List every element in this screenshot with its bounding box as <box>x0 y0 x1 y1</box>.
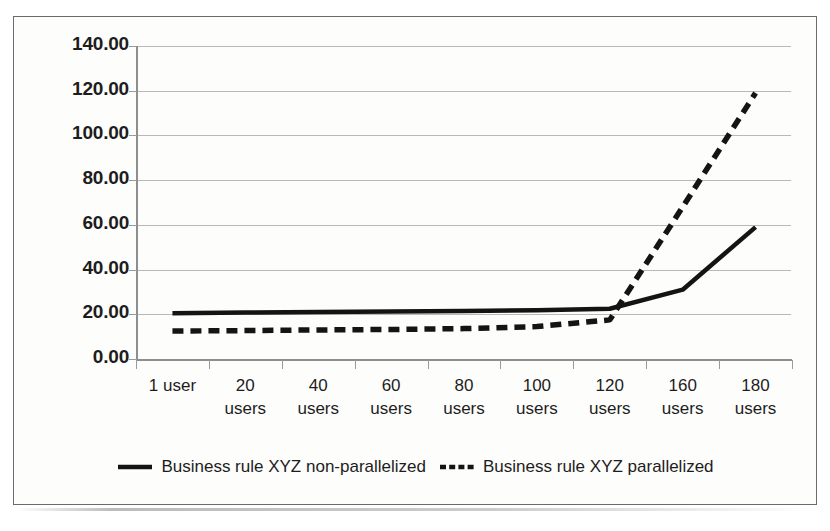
y-axis-tick-label: 120.00 <box>29 78 129 100</box>
chart-legend: Business rule XYZ non-parallelized Busin… <box>14 457 818 477</box>
x-axis-tick <box>355 360 356 369</box>
y-axis-tick-label: 100.00 <box>29 122 129 144</box>
legend-item-non-parallelized: Business rule XYZ non-parallelized <box>118 457 426 477</box>
legend-solid-line-icon <box>118 461 152 473</box>
legend-label-parallelized: Business rule XYZ parallelized <box>483 457 714 477</box>
y-axis-tick <box>129 270 137 271</box>
x-axis-tick <box>282 360 283 369</box>
y-axis-tick-label: 80.00 <box>29 167 129 189</box>
series-line-non-parallelized <box>172 227 755 313</box>
x-axis-tick <box>792 360 793 369</box>
y-axis-tick-label: 60.00 <box>29 212 129 234</box>
chart-frame: 140.00120.00100.0080.0060.0040.0020.000.… <box>13 16 817 505</box>
x-axis-tick <box>428 360 429 369</box>
x-axis-tick-label: 180 users <box>711 374 801 420</box>
y-axis-tick <box>129 225 137 226</box>
x-axis-tick <box>500 360 501 369</box>
x-axis-tick <box>646 360 647 369</box>
y-axis-tick <box>129 46 137 47</box>
x-axis-tick <box>573 360 574 369</box>
y-axis-labels: 140.00120.00100.0080.0060.0040.0020.000.… <box>24 17 129 504</box>
scan-shadow <box>16 508 816 511</box>
legend-dashed-line-icon <box>440 461 474 473</box>
legend-item-parallelized: Business rule XYZ parallelized <box>440 457 714 477</box>
y-axis-tick <box>129 314 137 315</box>
y-axis-tick <box>129 180 137 181</box>
y-axis-tick-label: 40.00 <box>29 257 129 279</box>
data-series-layer <box>136 46 792 360</box>
y-axis-tick <box>129 91 137 92</box>
x-axis-tick <box>209 360 210 369</box>
x-axis-tick <box>136 360 137 369</box>
y-axis-tick-label: 0.00 <box>29 346 129 368</box>
legend-label-non-parallelized: Business rule XYZ non-parallelized <box>161 457 426 477</box>
y-axis-tick-label: 140.00 <box>29 33 129 55</box>
x-axis-tick <box>719 360 720 369</box>
y-axis-tick-label: 20.00 <box>29 301 129 323</box>
y-axis-tick <box>129 135 137 136</box>
